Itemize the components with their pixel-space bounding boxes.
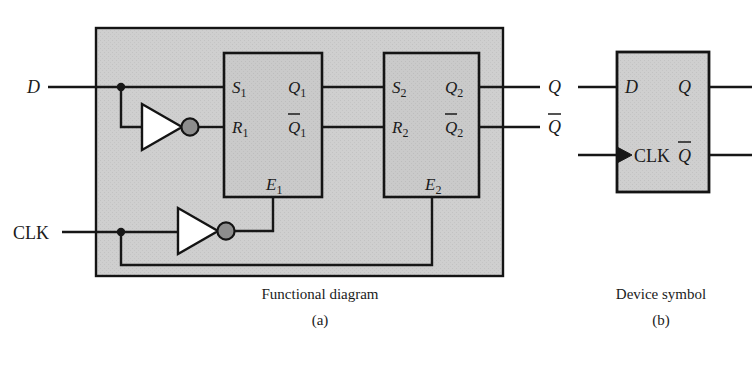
- clk-inverter-bubble-icon: [217, 222, 234, 239]
- panel-b-caption-letter: (b): [566, 312, 756, 329]
- symbol-label-q: Q: [678, 77, 691, 97]
- device-symbol-box: [617, 52, 709, 192]
- symbol-label-qbar: Q: [678, 146, 691, 166]
- panel-b-device-symbol: D CLK Q Q: [578, 52, 752, 192]
- panel-b-caption-title: Device symbol: [566, 286, 756, 303]
- symbol-label-d: D: [624, 77, 638, 97]
- symbol-label-clk: CLK: [634, 146, 670, 166]
- panel-a-caption-title: Functional diagram: [180, 286, 460, 303]
- label-qbar-output: Q: [548, 117, 561, 137]
- panel-a-functional-diagram: S1 R1 E1 Q1 Q1 S2 R2 E2 Q2 Q2 D CLK Q Q: [13, 28, 561, 276]
- d-inverter-bubble-icon: [181, 118, 198, 135]
- panel-a-caption-letter: (a): [180, 312, 460, 329]
- label-clk-input: CLK: [13, 223, 49, 243]
- figure-canvas: S1 R1 E1 Q1 Q1 S2 R2 E2 Q2 Q2 D CLK Q Q: [0, 0, 756, 376]
- label-d-input: D: [26, 77, 40, 97]
- label-q-output: Q: [548, 77, 561, 97]
